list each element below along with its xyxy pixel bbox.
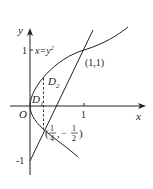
- svg-text:1: 1: [72, 124, 76, 133]
- x-axis-label: x: [135, 110, 141, 122]
- region-d2-label: D2: [47, 75, 60, 90]
- svg-text:1: 1: [50, 124, 54, 133]
- origin-label: O: [19, 108, 27, 120]
- svg-text:−: −: [61, 128, 66, 138]
- svg-text:): ): [79, 127, 83, 140]
- parabola-curve: [30, 106, 78, 157]
- svg-text:(: (: [45, 127, 49, 140]
- point-1-1-label: (1,1): [85, 57, 104, 69]
- graph-canvas: y x O 1 1 -1 x=y2 D2 D1 (1,1) ( 1 4 , − …: [0, 0, 153, 189]
- svg-text:,: ,: [57, 128, 60, 139]
- y-tick-label-neg: -1: [16, 155, 24, 166]
- point-quarter-neg-half-label: ( 1 4 , − 1 2 ): [45, 124, 83, 143]
- svg-text:4: 4: [50, 134, 54, 143]
- x-tick-label: 1: [81, 109, 86, 120]
- y-axis-label: y: [17, 24, 23, 36]
- y-tick-label-pos: 1: [22, 45, 27, 56]
- svg-text:2: 2: [72, 134, 76, 143]
- parabola-equation-label: x=y2: [34, 45, 54, 56]
